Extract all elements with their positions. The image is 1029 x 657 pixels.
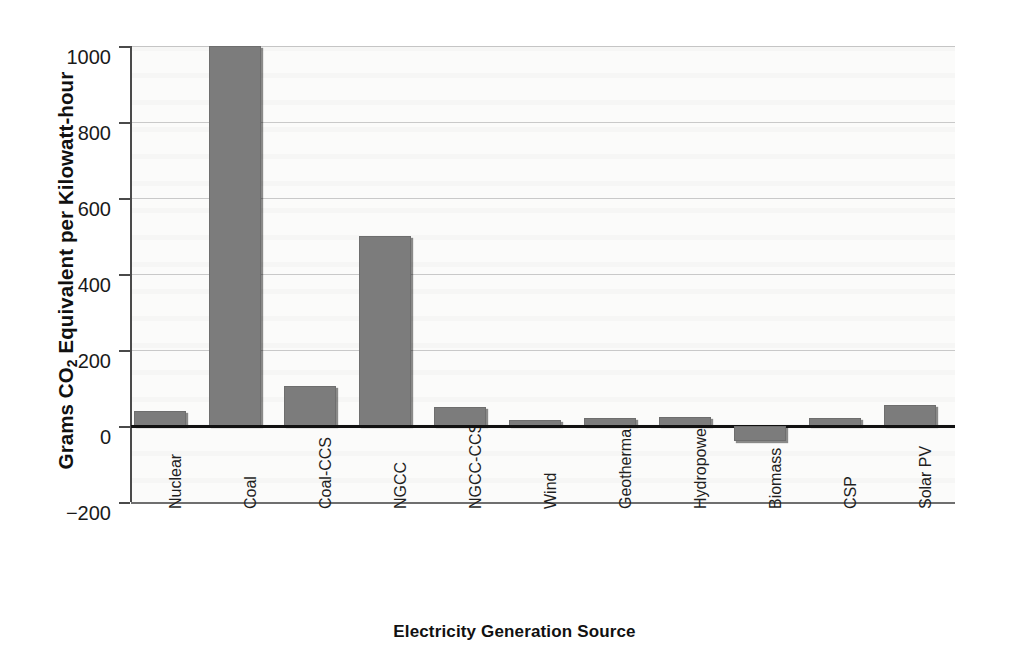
bar-solar-pv — [884, 405, 936, 426]
zero-baseline — [131, 425, 955, 428]
x-axis-tick-label-coal-ccs: Coal-CCS — [317, 437, 335, 509]
bar-chart-figure: Grams CO2 Equivalent per Kilowatt-hour E… — [0, 0, 1029, 657]
y-axis-spine — [130, 46, 132, 502]
x-axis-tick-label-solar-pv: Solar PV — [917, 446, 935, 509]
x-axis-tick-label-hydropower: Hydropower — [692, 423, 710, 509]
y-axis-title-prefix: Grams CO — [54, 367, 77, 469]
y-axis-tick — [119, 122, 130, 124]
y-axis-tick-label-text: 200 — [11, 350, 111, 373]
x-axis-tick-label-ngcc: NGCC — [392, 462, 410, 509]
x-axis-tick-label-csp: CSP — [842, 476, 860, 509]
x-axis-tick-label-wind: Wind — [542, 473, 560, 509]
bar-ngcc-ccs — [434, 407, 486, 426]
x-axis-tick-label-geothermal: Geothermal — [617, 425, 635, 509]
bar-coal-ccs — [284, 386, 336, 426]
bar-ngcc — [359, 236, 411, 426]
y-axis-tick-label-text: 600 — [11, 198, 111, 221]
y-axis-tick-label-text: 1000 — [11, 46, 111, 69]
plot-area — [131, 46, 955, 502]
y-axis-tick — [119, 46, 130, 48]
bar-coal — [209, 46, 261, 426]
x-axis-tick-label-biomass: Biomass — [767, 448, 785, 509]
y-axis-tick — [119, 198, 130, 200]
y-axis-tick-label-text: −200 — [11, 502, 111, 525]
bar-biomass — [734, 426, 786, 441]
x-axis-tick-label-coal: Coal — [242, 476, 260, 509]
y-axis-tick — [119, 350, 130, 352]
x-axis-tick-label-nuclear: Nuclear — [167, 454, 185, 509]
y-axis-tick — [119, 426, 130, 428]
y-axis-tick-label-text: 800 — [11, 122, 111, 145]
x-axis-title: Electricity Generation Source — [0, 622, 1029, 642]
x-axis-tick-label-ngcc-ccs: NGCC-CCS — [467, 423, 485, 509]
y-axis-tick-label-text: 0 — [11, 426, 111, 449]
y-axis-tick-label-text: 400 — [11, 274, 111, 297]
y-axis-tick — [119, 274, 130, 276]
y-axis-tick — [119, 502, 130, 504]
